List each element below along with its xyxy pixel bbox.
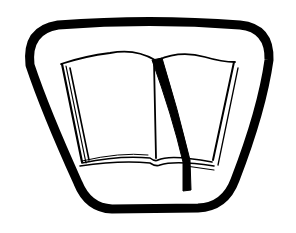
book-emblem	[0, 0, 296, 233]
open-book-icon	[61, 52, 238, 170]
bookmark-ribbon-icon	[152, 58, 191, 191]
book-emblem-svg	[0, 0, 296, 233]
trapezoid-frame	[30, 22, 269, 210]
